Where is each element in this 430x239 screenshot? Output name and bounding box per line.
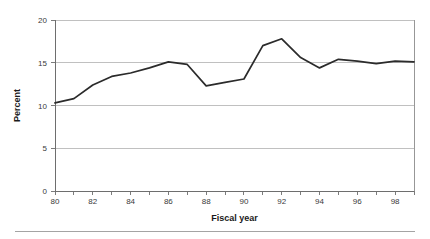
y-tick-marks <box>51 20 55 191</box>
y-tick-labels: 20 15 10 5 0 <box>38 16 47 196</box>
y-tick-label-5: 5 <box>43 144 48 153</box>
x-tick-label-88: 88 <box>202 197 211 206</box>
x-tick-label-84: 84 <box>126 197 135 206</box>
y-tick-label-15: 15 <box>38 59 47 68</box>
y-tick-label-0: 0 <box>43 187 48 196</box>
x-tick-labels: 80 82 84 86 88 90 92 94 96 98 <box>51 197 401 206</box>
x-tick-label-96: 96 <box>353 197 362 206</box>
plot-frame <box>55 20 414 191</box>
y-axis-title: Percent <box>12 89 22 122</box>
x-tick-label-94: 94 <box>315 197 324 206</box>
data-series-line <box>55 39 414 103</box>
y-tick-label-10: 10 <box>38 102 47 111</box>
x-tick-marks <box>55 191 414 195</box>
x-tick-label-98: 98 <box>391 197 400 206</box>
chart-figure: 20 15 10 5 0 <box>0 0 430 239</box>
x-tick-label-86: 86 <box>164 197 173 206</box>
x-tick-label-80: 80 <box>51 197 60 206</box>
x-tick-label-90: 90 <box>239 197 248 206</box>
x-axis-title: Fiscal year <box>211 213 258 223</box>
x-tick-label-92: 92 <box>277 197 286 206</box>
x-tick-label-82: 82 <box>88 197 97 206</box>
line-chart: 20 15 10 5 0 <box>0 0 430 239</box>
y-tick-label-20: 20 <box>38 16 47 25</box>
